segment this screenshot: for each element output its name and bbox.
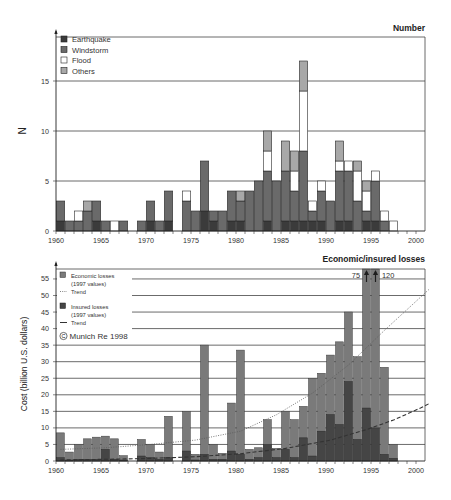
bar-segment-windstorm (218, 211, 226, 231)
bar-economic (111, 439, 119, 461)
bar-segment-windstorm (191, 211, 199, 231)
bar-segment-windstorm (56, 201, 64, 221)
bar-segment-others (335, 141, 343, 161)
bar-economic (309, 378, 317, 461)
y-tick-label: 45 (41, 308, 49, 317)
bar-segment-windstorm (65, 221, 73, 231)
bar-economic (291, 420, 299, 461)
legend-sublabel-economic: (1997 values) (71, 281, 106, 287)
bar-segment-windstorm (290, 191, 298, 221)
x-tick-label: 2000 (408, 236, 424, 245)
bar-segment-earthquake (317, 221, 325, 231)
bar-segment-earthquake (56, 221, 64, 231)
x-tick-label: 1970 (138, 466, 154, 475)
bar-segment-windstorm (344, 171, 352, 221)
x-tick-label: 1965 (93, 466, 109, 475)
bar-segment-windstorm (236, 201, 244, 221)
bar-segment-windstorm (200, 161, 208, 211)
bar-segment-flood (317, 181, 325, 191)
earthquake-swatch-icon (61, 36, 67, 42)
bar-insured (309, 456, 317, 461)
y-tick-label: 30 (41, 357, 49, 366)
x-tick-label: 1995 (363, 466, 379, 475)
bar-segment-others (362, 181, 370, 191)
y-tick-label: 5 (45, 440, 49, 449)
legend-trend-insured: Trend (71, 320, 86, 326)
gridlines (56, 81, 425, 181)
legend-label: Flood (72, 56, 91, 65)
bar-segment-windstorm (245, 191, 253, 231)
bar-segment-others (263, 131, 271, 151)
bar-segment-windstorm (353, 201, 361, 231)
bar-segment-windstorm (335, 171, 343, 221)
bar-insured (336, 425, 344, 461)
bar-segment-windstorm (137, 221, 145, 231)
legend-label: Others (72, 67, 95, 76)
bar-segment-windstorm (119, 221, 127, 231)
bar-segment-windstorm (362, 211, 370, 221)
bar-economic (165, 416, 173, 461)
bar-insured (363, 408, 371, 461)
bar-segment-flood (263, 151, 271, 171)
x-tick-label: 1975 (183, 236, 199, 245)
bar-segment-others (281, 141, 289, 171)
bar-insured (300, 438, 308, 461)
bar-segment-windstorm (281, 171, 289, 221)
bar-segment-windstorm (371, 181, 379, 221)
bar-segment-earthquake (227, 221, 235, 231)
x-tick-label: 1990 (318, 236, 334, 245)
x-tick-label: 1990 (318, 466, 334, 475)
bar-segment-windstorm (227, 191, 235, 221)
bar-insured (228, 451, 236, 461)
bar-segment-windstorm (164, 191, 172, 221)
x-tick-label: 1960 (48, 236, 64, 245)
insured-swatch-icon (60, 303, 66, 309)
bar-insured (264, 444, 272, 461)
bar-segment-earthquake (308, 221, 316, 231)
bar-insured (327, 415, 335, 461)
bar-economic (93, 437, 101, 461)
bar-economic (237, 350, 245, 461)
bar-insured (183, 451, 191, 461)
legend-label: Earthquake (72, 35, 111, 44)
y-tick-label: 10 (41, 127, 49, 136)
bar-segment-earthquake (200, 211, 208, 231)
bar-segment-flood (290, 171, 298, 191)
bar-segment-flood (74, 211, 82, 221)
x-tick-label: 1980 (228, 466, 244, 475)
x-tick-label: 1985 (273, 466, 289, 475)
bar-segment-windstorm (272, 181, 280, 231)
bar-segment-earthquake (335, 221, 343, 231)
legend-item-earthquake: Earthquake (61, 35, 111, 44)
bar-economic (57, 433, 65, 461)
y-tick-label: 40 (41, 324, 49, 333)
bar-insured (201, 454, 209, 461)
bar-segment-windstorm (92, 201, 100, 221)
x-tick-label: 1965 (93, 236, 109, 245)
x-tick-label: 1980 (228, 236, 244, 245)
x-tick-label: 1985 (273, 236, 289, 245)
bar-insured (354, 439, 362, 461)
y-axis-title-number: N (17, 127, 28, 134)
bar-segment-flood (299, 91, 307, 151)
bar-insured (255, 458, 263, 461)
bar-segment-flood (182, 191, 190, 201)
y-axis-arrow-icon (54, 261, 57, 266)
economic-swatch-icon (60, 272, 66, 278)
legend-item-flood: Flood (61, 56, 91, 65)
bar-segment-windstorm (209, 211, 217, 221)
bar-segment-flood (353, 171, 361, 201)
legend-sublabel-insured: (1997 values) (71, 312, 106, 318)
bar-segment-earthquake (263, 221, 271, 231)
y-tick-label: 10 (41, 423, 49, 432)
y-tick-label: 0 (45, 227, 49, 236)
bar-segment-others (299, 61, 307, 91)
x-tick-label: 1970 (138, 236, 154, 245)
bar-segment-flood (335, 161, 343, 171)
chart-number: Number N 1960196519701975198019851990199… (17, 23, 426, 245)
y-tick-label: 15 (41, 77, 49, 86)
bar-segment-windstorm (299, 151, 307, 221)
bar-segment-earthquake (362, 221, 370, 231)
bar-segment-windstorm (182, 201, 190, 231)
bar-segment-flood (380, 211, 388, 221)
